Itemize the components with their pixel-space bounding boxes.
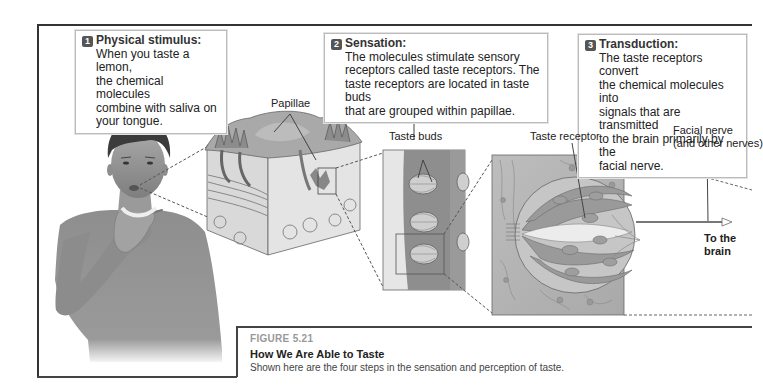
callout-line: that are grouped within papillae. — [331, 105, 541, 119]
callout-sensation: 2Sensation: The molecules stimulate sens… — [324, 33, 548, 123]
figure-caption: FIGURE 5.21 How We Are Able to Taste Sho… — [250, 333, 564, 373]
step-1-badge: 1 — [82, 36, 93, 47]
tongue-cross-section — [205, 111, 362, 255]
callout-line: the chemical molecules — [82, 75, 220, 102]
label-facial-nerve-line1: Facial nerve — [673, 124, 733, 136]
callout-line: The molecules stimulate sensory — [331, 51, 541, 65]
callout-line: your tongue. — [82, 115, 220, 129]
taste-receptor-detail — [492, 155, 640, 315]
figure-title: How We Are Able to Taste — [250, 348, 564, 360]
label-papillae: Papillae — [271, 97, 310, 109]
step-3-badge: 3 — [585, 40, 596, 51]
callout-line: When you taste a lemon, — [82, 48, 220, 75]
callout-line: receptors called taste receptors. The — [331, 64, 541, 78]
callout-line: combine with saliva on — [82, 102, 220, 116]
callout-heading: Transduction: — [599, 37, 678, 51]
callout-physical-stimulus: 1Physical stimulus: When you taste a lem… — [75, 30, 227, 134]
label-facial-nerve: Facial nerve (and other nerves) — [673, 124, 763, 150]
callout-line: The taste receptors convert — [585, 52, 740, 79]
callout-line: taste receptors are located in taste bud… — [331, 78, 541, 105]
callout-line: the chemical molecules into — [585, 79, 740, 106]
label-facial-nerve-line2: (and other nerves) — [673, 137, 763, 149]
callout-heading: Physical stimulus: — [96, 33, 201, 47]
callout-line: facial nerve. — [585, 160, 740, 174]
figure-description: Shown here are the four steps in the sen… — [250, 362, 564, 373]
child-illustration — [55, 120, 222, 362]
label-to-the-brain: To the brain — [704, 232, 736, 258]
figure-number: FIGURE 5.21 — [250, 333, 564, 344]
label-taste-receptor: Taste receptor — [530, 130, 600, 142]
callout-transduction: 3Transduction: The taste receptors conve… — [578, 34, 747, 178]
step-2-badge: 2 — [331, 39, 342, 50]
callout-heading: Sensation: — [345, 36, 406, 50]
label-taste-buds: Taste buds — [389, 130, 442, 142]
label-to-brain-line1: To the — [704, 232, 736, 244]
label-to-brain-line2: brain — [704, 245, 731, 257]
taste-bud-column — [383, 150, 469, 290]
